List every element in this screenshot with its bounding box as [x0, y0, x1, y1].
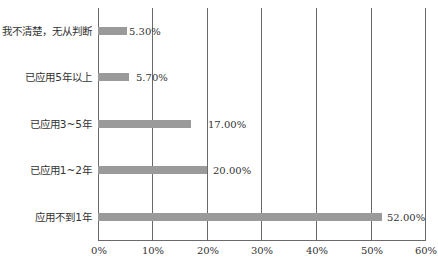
- value-label: 5.30%: [129, 26, 161, 38]
- bar: [98, 73, 129, 81]
- category-label: 应用不到1年: [0, 211, 92, 223]
- category-label: 我不清楚，无从判断: [0, 25, 92, 37]
- bar: [98, 27, 127, 35]
- x-tick-label: 0%: [79, 245, 119, 256]
- gridline-40: [316, 8, 317, 240]
- category-label: 已应用3~5年: [0, 118, 92, 130]
- x-tick-label: 10%: [133, 245, 173, 256]
- bar-chart: 0% 10% 20% 30% 40% 50% 60% 我不清楚，无从判断 5.3…: [0, 0, 438, 268]
- x-tick-label: 30%: [242, 245, 282, 256]
- value-label: 17.00%: [208, 119, 246, 131]
- bar: [98, 120, 191, 128]
- gridline-50: [371, 8, 372, 240]
- value-label: 5.70%: [136, 72, 168, 84]
- x-tick-label: 20%: [188, 245, 228, 256]
- value-label: 52.00%: [387, 212, 425, 224]
- x-tick-label: 60%: [406, 245, 438, 256]
- bar: [98, 166, 207, 174]
- gridline-30: [261, 8, 262, 240]
- x-tick-label: 50%: [352, 245, 392, 256]
- gridline-60: [425, 8, 426, 240]
- value-label: 20.00%: [213, 165, 251, 177]
- category-label: 已应用1~2年: [0, 164, 92, 176]
- x-tick-label: 40%: [297, 245, 337, 256]
- category-label: 已应用5年以上: [0, 71, 92, 83]
- bar: [98, 213, 382, 221]
- x-axis-line: [98, 240, 426, 241]
